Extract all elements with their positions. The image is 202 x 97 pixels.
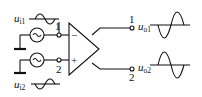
output-label-2: uo2 bbox=[138, 61, 151, 75]
output-terminal-1 bbox=[130, 26, 134, 30]
differential-amplifier-diagram: ui1 ui2 1 2 − + 1 2 uo1 uo2 bbox=[0, 0, 202, 97]
input-label-2: ui2 bbox=[14, 78, 26, 92]
output-terminal-2-number: 2 bbox=[129, 71, 135, 83]
inverting-input-sign: − bbox=[71, 29, 77, 41]
sine-source-icon-2 bbox=[33, 59, 41, 62]
input-terminal-1 bbox=[57, 33, 61, 37]
input-terminal-2 bbox=[57, 58, 61, 62]
input-terminal-1-number: 1 bbox=[55, 20, 61, 32]
output-label-1: uo1 bbox=[138, 20, 151, 34]
sine-source-icon-1 bbox=[33, 34, 41, 37]
noninverting-input-sign: + bbox=[71, 54, 77, 66]
input-terminal-2-number: 2 bbox=[56, 63, 62, 75]
output-terminal-1-number: 1 bbox=[129, 13, 135, 25]
input-label-1: ui1 bbox=[14, 12, 26, 26]
